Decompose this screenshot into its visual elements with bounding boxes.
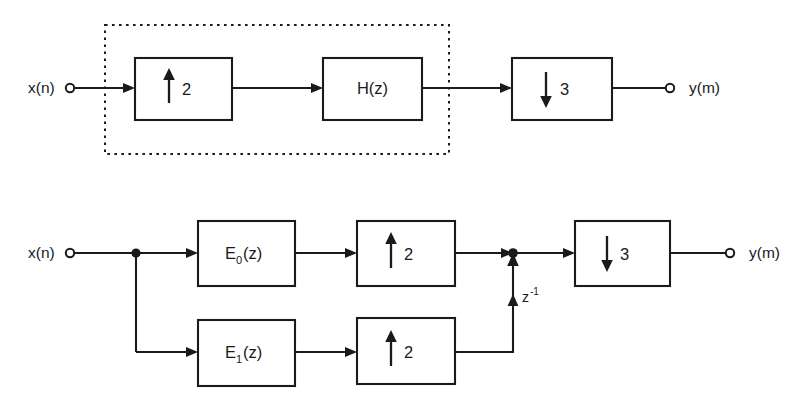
filter-hz-label: H(z) — [357, 79, 388, 97]
delay-exponent: -1 — [530, 286, 539, 297]
output-terminal-bottom — [726, 249, 734, 257]
arrowhead-into-down3 — [500, 83, 512, 93]
polyphase-e0-label: E — [225, 244, 236, 262]
input-terminal-bottom — [66, 249, 74, 257]
figure-canvas: 2 H(z) 3 x(n) y(m) — [0, 0, 811, 406]
diagram-direct-form: 2 H(z) 3 x(n) y(m) — [28, 25, 720, 154]
polyphase-e0-suffix: (z) — [243, 244, 262, 262]
polyphase-e1-subscript: 1 — [236, 353, 242, 365]
arrowhead-delay-midpath — [508, 294, 519, 306]
input-label-top: x(n) — [28, 79, 55, 96]
input-terminal-top — [66, 84, 74, 92]
diagram-polyphase-form: E 0 (z) 2 3 — [28, 221, 780, 386]
upsample-factor-top: 2 — [182, 80, 191, 98]
polyphase-e0-subscript: 0 — [236, 254, 242, 266]
arrowhead-into-up2a — [345, 248, 357, 258]
block-diagram-svg: 2 H(z) 3 x(n) y(m) — [0, 0, 811, 406]
output-label-bottom: y(m) — [749, 244, 780, 261]
arrowhead-into-up2 — [123, 83, 135, 93]
arrowhead-into-e1 — [186, 347, 198, 357]
upsample-factor-upper: 2 — [404, 245, 413, 263]
input-label-bottom: x(n) — [28, 244, 55, 261]
output-terminal-top — [666, 84, 674, 92]
arrowhead-into-up2b — [345, 347, 357, 357]
wire-delay-feedback-path — [455, 262, 513, 352]
delay-label: z — [522, 289, 529, 305]
downsample-factor-bottom: 3 — [620, 245, 629, 263]
upsample-factor-lower: 2 — [404, 343, 413, 361]
arrowhead-into-hz — [311, 83, 323, 93]
polyphase-e1-suffix: (z) — [243, 343, 262, 361]
arrowhead-into-down3-bottom — [563, 248, 575, 258]
downsample-factor-top: 3 — [560, 80, 569, 98]
polyphase-e1-label: E — [225, 343, 236, 361]
output-label-top: y(m) — [689, 79, 720, 96]
arrowhead-into-e0 — [186, 248, 198, 258]
